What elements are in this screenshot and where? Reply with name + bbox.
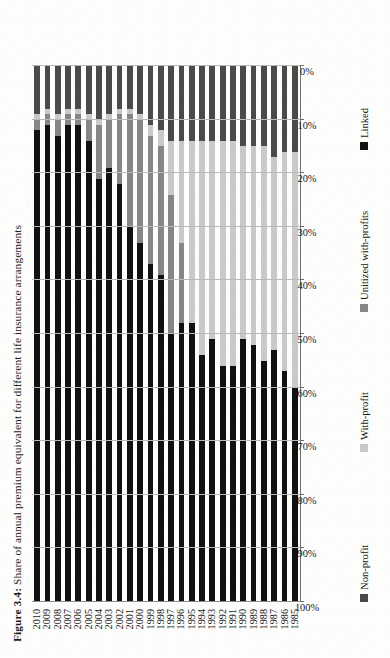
bar-segment-withprofit [251, 146, 257, 344]
bar-segment-linked [65, 125, 71, 602]
bar-row [282, 66, 288, 602]
year-label: 1994 [196, 609, 207, 629]
gridline-20pct [32, 172, 300, 173]
bar-row [168, 66, 174, 602]
year-label: 2005 [83, 609, 94, 629]
bar-segment-linked [96, 179, 102, 602]
bar-segment-linked [148, 264, 154, 602]
year-label: 2003 [103, 609, 114, 629]
bar-segment-withprofit [168, 141, 174, 195]
year-label: 1987 [268, 609, 279, 629]
bar-segment-withprofit [75, 109, 81, 114]
plot-area [32, 66, 300, 602]
bar-row [261, 66, 267, 602]
bar-segment-nonprofit [220, 66, 226, 141]
bar-segment-withprofit [117, 109, 123, 114]
percent-axis-labels: 100%90%80%70%60%50%40%30%20%10%0% [300, 66, 360, 602]
year-axis-labels: 1985198619871988198919901991199219931994… [32, 606, 300, 658]
gridline-90pct [32, 547, 300, 548]
bar-segment-linked [106, 168, 112, 602]
axis-tick-label: 0% [300, 66, 314, 77]
legend-swatch-icon [360, 304, 368, 312]
chart-legend: Non-profitWith-profitUnitized with-profi… [352, 66, 376, 602]
bars-container [32, 66, 300, 602]
bar-segment-withprofit [158, 130, 164, 146]
bar-segment-linked [117, 184, 123, 602]
year-label: 1998 [155, 609, 166, 629]
gridline-70pct [32, 440, 300, 441]
gridline-0pct [32, 65, 300, 66]
bar-segment-nonprofit [127, 66, 133, 109]
bar-segment-nonprofit [96, 66, 102, 120]
bar-segment-nonprofit [282, 66, 288, 152]
bar-segment-withprofit [179, 141, 185, 243]
bar-segment-linked [55, 136, 61, 602]
axis-tick-label: 70% [297, 441, 316, 452]
bar-row [199, 66, 205, 602]
bar-row [137, 66, 143, 602]
bar-segment-nonprofit [75, 66, 81, 109]
bar-row [240, 66, 246, 602]
bar-segment-unitized [137, 120, 143, 243]
bar-segment-nonprofit [292, 66, 298, 152]
gridline-80pct [32, 494, 300, 495]
axis-tick-label: 30% [297, 227, 316, 238]
bar-segment-nonprofit [55, 66, 61, 114]
figure-page: Figure 3.4: Share of annual premium equi… [0, 0, 390, 658]
axis-tick-label: 20% [297, 173, 316, 184]
bar-segment-unitized [86, 120, 92, 141]
bar-row [179, 66, 185, 602]
bar-row [158, 66, 164, 602]
bar-segment-nonprofit [209, 66, 215, 141]
bar-segment-nonprofit [45, 66, 51, 109]
figure-label: Figure 3.4: [11, 588, 23, 642]
year-label: 1989 [248, 609, 259, 629]
bar-segment-linked [45, 125, 51, 602]
bar-segment-linked [189, 323, 195, 602]
bar-segment-withprofit [65, 109, 71, 114]
bar-segment-withprofit [261, 146, 267, 360]
legend-item-withprofit: With-profit [359, 392, 370, 452]
year-label: 2006 [72, 609, 83, 629]
bar-segment-withprofit [96, 120, 102, 125]
year-label: 2007 [62, 609, 73, 629]
bar-row [106, 66, 112, 602]
year-label: 1996 [175, 609, 186, 629]
bar-row [148, 66, 154, 602]
bar-segment-withprofit [189, 141, 195, 323]
bar-segment-unitized [106, 120, 112, 168]
gridline-10pct [32, 119, 300, 120]
bar-segment-linked [251, 345, 257, 602]
year-label: 1997 [165, 609, 176, 629]
bar-segment-withprofit [209, 141, 215, 339]
bar-segment-withprofit [292, 152, 298, 388]
bar-segment-linked [199, 355, 205, 602]
bar-row [230, 66, 236, 602]
year-label: 2010 [31, 609, 42, 629]
bar-segment-linked [271, 350, 277, 602]
bar-segment-unitized [158, 146, 164, 275]
bar-row [209, 66, 215, 602]
bar-segment-unitized [117, 114, 123, 184]
bar-segment-withprofit [271, 157, 277, 350]
axis-tick-label: 50% [297, 334, 316, 345]
gridline-60pct [32, 387, 300, 388]
bar-segment-linked [209, 339, 215, 602]
bar-segment-unitized [55, 120, 61, 136]
year-label: 2008 [52, 609, 63, 629]
year-label: 2009 [41, 609, 52, 629]
bar-segment-withprofit [240, 146, 246, 339]
bar-segment-nonprofit [199, 66, 205, 141]
bar-row [86, 66, 92, 602]
bar-segment-linked [86, 141, 92, 602]
bar-segment-nonprofit [230, 66, 236, 141]
axis-tick-label: 40% [297, 280, 316, 291]
bar-segment-linked [34, 130, 40, 602]
bar-segment-nonprofit [86, 66, 92, 114]
bar-segment-unitized [96, 125, 102, 179]
year-label: 2004 [93, 609, 104, 629]
bar-segment-linked [179, 323, 185, 602]
legend-swatch-icon [360, 594, 368, 602]
bar-row [96, 66, 102, 602]
bar-segment-nonprofit [179, 66, 185, 141]
